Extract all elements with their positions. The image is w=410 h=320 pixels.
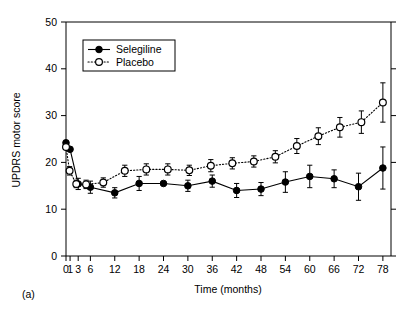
legend-marker-open — [96, 59, 103, 66]
data-point-open — [164, 166, 171, 173]
data-point-open — [358, 119, 365, 126]
data-point-open — [63, 144, 70, 151]
panel-caption: (a) — [22, 288, 35, 300]
updrs-motor-score-line-chart: 01020304050 0136121824303642485460667278… — [0, 0, 410, 320]
y-tick-label: 40 — [45, 62, 57, 74]
y-tick-label: 50 — [45, 16, 57, 28]
series-line — [66, 143, 383, 193]
data-point-open — [66, 167, 73, 174]
x-tick-label: 6 — [87, 263, 93, 275]
data-point-open — [100, 179, 107, 186]
y-tick-label: 30 — [45, 109, 57, 121]
data-point-open — [250, 158, 257, 165]
figure-panel: 01020304050 0136121824303642485460667278… — [0, 0, 410, 320]
data-point-open — [186, 167, 193, 174]
y-tick-label: 0 — [51, 250, 57, 262]
y-axis-title: UPDRS motor score — [10, 92, 22, 187]
x-tick-label: 1 — [67, 263, 73, 275]
chart-legend: SelegilinePlacebo — [83, 40, 175, 71]
data-point-filled — [355, 183, 362, 190]
x-axis-title: Time (months) — [194, 283, 261, 295]
x-tick-label: 78 — [377, 263, 389, 275]
data-point-open — [293, 143, 300, 150]
x-tick-label: 66 — [328, 263, 340, 275]
data-point-open — [83, 181, 90, 188]
data-point-open — [336, 124, 343, 131]
data-point-filled — [380, 165, 387, 172]
series-placebo — [63, 83, 387, 189]
data-point-filled — [233, 187, 240, 194]
data-point-open — [143, 166, 150, 173]
legend-label: Placebo — [116, 56, 154, 68]
x-tick-label: 60 — [304, 263, 316, 275]
legend-label: Selegiline — [116, 43, 162, 55]
data-point-open — [272, 153, 279, 160]
data-point-open — [121, 167, 128, 174]
y-tick-label: 20 — [45, 156, 57, 168]
legend-marker-filled — [96, 46, 103, 53]
data-point-filled — [306, 173, 313, 180]
x-tick-label: 36 — [206, 263, 218, 275]
data-point-open — [379, 99, 386, 106]
data-point-filled — [160, 180, 167, 187]
x-tick-label: 12 — [109, 263, 121, 275]
data-point-open — [229, 160, 236, 167]
data-point-filled — [185, 183, 192, 190]
data-point-open — [315, 133, 322, 140]
data-series-group — [63, 83, 387, 200]
x-axis: 0136121824303642485460667278 — [63, 256, 389, 275]
x-tick-label: 18 — [133, 263, 145, 275]
data-point-open — [73, 181, 80, 188]
data-point-filled — [258, 186, 265, 193]
data-point-filled — [136, 180, 143, 187]
x-tick-label: 3 — [75, 263, 81, 275]
data-point-open — [207, 162, 214, 169]
series-line — [66, 102, 383, 184]
series-selegiline — [63, 139, 386, 200]
data-point-filled — [209, 178, 216, 185]
x-tick-label: 48 — [255, 263, 267, 275]
x-tick-label: 72 — [353, 263, 365, 275]
data-point-filled — [282, 179, 289, 186]
data-point-filled — [331, 175, 338, 182]
x-tick-label: 42 — [231, 263, 243, 275]
y-tick-label: 10 — [45, 203, 57, 215]
x-tick-label: 30 — [182, 263, 194, 275]
x-tick-label: 24 — [158, 263, 170, 275]
x-tick-label: 54 — [280, 263, 292, 275]
data-point-filled — [111, 190, 118, 197]
